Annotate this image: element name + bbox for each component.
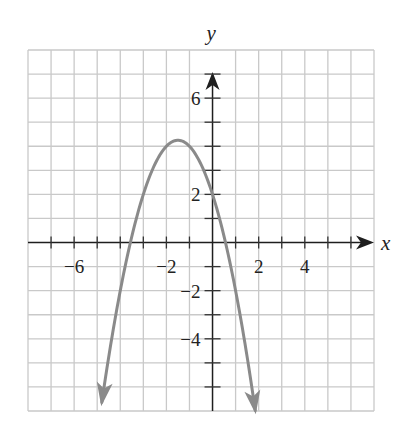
grid <box>28 50 374 411</box>
x-tick-label: 4 <box>300 256 310 277</box>
x-tick-label: −6 <box>64 256 84 277</box>
x-tick-label: 2 <box>254 256 264 277</box>
y-tick-label: −4 <box>180 329 201 350</box>
ticks <box>51 74 351 387</box>
y-tick-label: −2 <box>180 281 200 302</box>
parabola-curve <box>102 140 255 410</box>
y-tick-label: 2 <box>191 184 201 205</box>
x-axis-label: x <box>380 231 391 255</box>
y-tick-label: 6 <box>191 88 201 109</box>
y-axis-label: y <box>205 21 217 45</box>
parabola-chart: x y −6−22462−2−4 <box>0 0 408 432</box>
x-tick-label: −2 <box>156 256 176 277</box>
axes: x y <box>28 21 391 411</box>
